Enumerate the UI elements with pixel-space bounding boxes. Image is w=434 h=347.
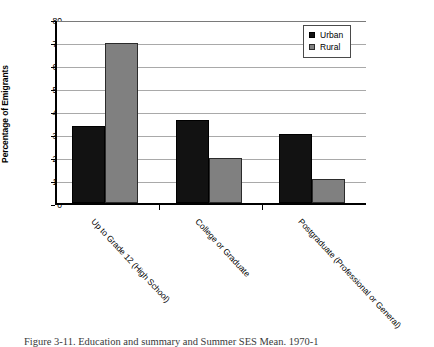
legend-label-urban: Urban <box>320 30 343 40</box>
gridline <box>57 90 366 91</box>
gridline <box>57 67 366 68</box>
x-category-label: Up to Grade 12 (High School) <box>89 217 172 305</box>
legend-item-urban[interactable]: Urban <box>309 29 343 41</box>
chart-legend[interactable]: Urban Rural <box>303 25 351 58</box>
gridline <box>57 113 366 114</box>
urban-swatch-icon <box>309 32 315 38</box>
bar-urban-0[interactable] <box>72 126 105 203</box>
x-tick-mark <box>262 205 263 210</box>
bar-rural-1[interactable] <box>209 158 242 203</box>
gridline <box>57 21 366 22</box>
legend-item-rural[interactable]: Rural <box>309 41 343 53</box>
x-category-label: Postgraduate (Professional or General) <box>296 217 403 331</box>
x-tick-mark <box>159 205 160 210</box>
rural-swatch-icon <box>309 44 315 50</box>
bar-urban-1[interactable] <box>176 120 209 203</box>
bar-rural-0[interactable] <box>105 43 138 203</box>
bar-urban-2[interactable] <box>279 134 312 203</box>
y-axis-title: Percentage of Emigrants <box>0 46 10 182</box>
x-category-label: College or Graduate <box>193 217 252 279</box>
legend-label-rural: Rural <box>320 42 340 52</box>
bar-rural-2[interactable] <box>312 179 345 203</box>
y-tick-mark <box>51 205 55 206</box>
figure-caption: Figure 3-11. Education and summary and S… <box>24 336 424 347</box>
